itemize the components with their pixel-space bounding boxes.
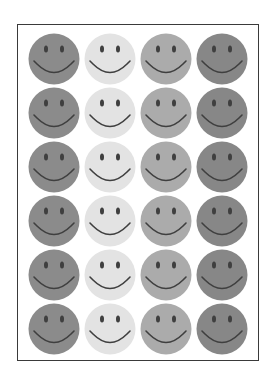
- right-eye: [228, 207, 232, 214]
- right-eye: [60, 45, 64, 52]
- smiley-sticker: [197, 142, 248, 193]
- smiley-sticker: [197, 34, 248, 85]
- right-eye: [60, 153, 64, 160]
- right-eye: [60, 315, 64, 322]
- smiley-face-icon: [197, 88, 248, 139]
- right-eye: [116, 207, 120, 214]
- smiley-face-icon: [141, 88, 192, 139]
- smiley-sticker: [85, 88, 136, 139]
- smiley-face-icon: [29, 250, 80, 301]
- left-eye: [100, 99, 104, 106]
- left-eye: [100, 315, 104, 322]
- smiley-sticker: [141, 196, 192, 247]
- left-eye: [156, 153, 160, 160]
- right-eye: [172, 207, 176, 214]
- right-eye: [172, 315, 176, 322]
- smiley-face-icon: [85, 250, 136, 301]
- smiley-face-icon: [85, 34, 136, 85]
- left-eye: [100, 153, 104, 160]
- left-eye: [156, 315, 160, 322]
- right-eye: [172, 99, 176, 106]
- right-eye: [116, 45, 120, 52]
- left-eye: [44, 99, 48, 106]
- right-eye: [172, 153, 176, 160]
- smiley-sticker: [29, 88, 80, 139]
- smiley-face-icon: [29, 304, 80, 355]
- smiley-face-icon: [197, 34, 248, 85]
- smiley-sticker: [197, 304, 248, 355]
- smiley-sticker: [85, 196, 136, 247]
- right-eye: [116, 153, 120, 160]
- smiley-face-icon: [29, 88, 80, 139]
- left-eye: [212, 153, 216, 160]
- right-eye: [60, 261, 64, 268]
- left-eye: [156, 261, 160, 268]
- smiley-sticker: [29, 142, 80, 193]
- left-eye: [100, 207, 104, 214]
- left-eye: [212, 45, 216, 52]
- smiley-sticker: [29, 304, 80, 355]
- smiley-face-icon: [141, 34, 192, 85]
- smiley-sticker: [141, 250, 192, 301]
- left-eye: [156, 207, 160, 214]
- smiley-face-icon: [85, 142, 136, 193]
- smiley-sticker: [197, 196, 248, 247]
- left-eye: [44, 261, 48, 268]
- left-eye: [156, 45, 160, 52]
- left-eye: [44, 207, 48, 214]
- smiley-face-icon: [141, 196, 192, 247]
- smiley-face-icon: [197, 196, 248, 247]
- smiley-face-icon: [197, 304, 248, 355]
- right-eye: [116, 261, 120, 268]
- right-eye: [172, 45, 176, 52]
- smiley-face-icon: [141, 250, 192, 301]
- smiley-face-icon: [197, 250, 248, 301]
- right-eye: [172, 261, 176, 268]
- smiley-sticker: [197, 88, 248, 139]
- smiley-sticker: [85, 250, 136, 301]
- left-eye: [212, 99, 216, 106]
- right-eye: [116, 99, 120, 106]
- left-eye: [100, 45, 104, 52]
- smiley-sticker: [141, 34, 192, 85]
- smiley-face-icon: [85, 88, 136, 139]
- smiley-sticker: [141, 304, 192, 355]
- smiley-sticker: [29, 34, 80, 85]
- smiley-sticker: [141, 142, 192, 193]
- smiley-face-icon: [85, 304, 136, 355]
- right-eye: [228, 45, 232, 52]
- left-eye: [44, 315, 48, 322]
- left-eye: [44, 45, 48, 52]
- right-eye: [228, 261, 232, 268]
- left-eye: [44, 153, 48, 160]
- left-eye: [212, 315, 216, 322]
- right-eye: [228, 315, 232, 322]
- smiley-face-icon: [141, 304, 192, 355]
- smiley-sticker: [141, 88, 192, 139]
- right-eye: [228, 153, 232, 160]
- smiley-face-icon: [29, 142, 80, 193]
- smiley-face-icon: [85, 196, 136, 247]
- smiley-face-icon: [29, 34, 80, 85]
- smiley-sticker: [29, 250, 80, 301]
- right-eye: [60, 99, 64, 106]
- smiley-sticker: [85, 34, 136, 85]
- right-eye: [60, 207, 64, 214]
- smiley-sticker: [85, 304, 136, 355]
- left-eye: [212, 261, 216, 268]
- right-eye: [228, 99, 232, 106]
- smiley-face-icon: [197, 142, 248, 193]
- smiley-face-icon: [141, 142, 192, 193]
- smiley-grid: [0, 0, 274, 382]
- smiley-sticker: [85, 142, 136, 193]
- left-eye: [100, 261, 104, 268]
- left-eye: [212, 207, 216, 214]
- smiley-face-icon: [29, 196, 80, 247]
- smiley-sticker: [197, 250, 248, 301]
- smiley-sticker: [29, 196, 80, 247]
- left-eye: [156, 99, 160, 106]
- right-eye: [116, 315, 120, 322]
